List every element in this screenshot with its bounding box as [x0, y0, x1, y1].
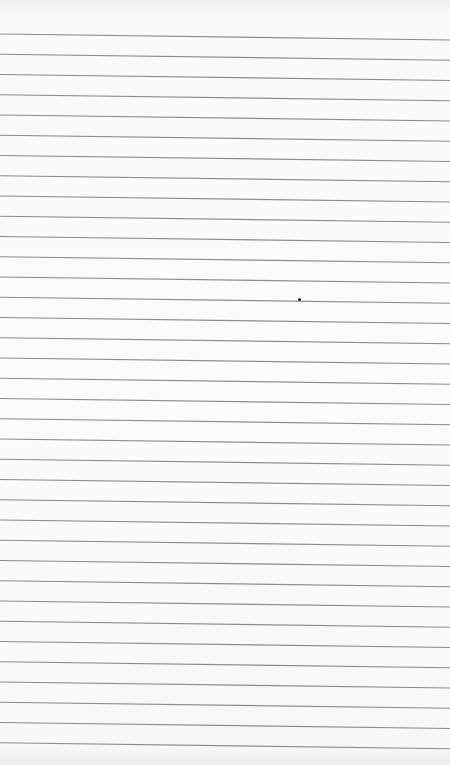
- ruled-line: [0, 480, 450, 486]
- ruled-line: [0, 702, 450, 708]
- ruled-line: [0, 358, 450, 364]
- ruled-line: [0, 459, 450, 465]
- ruled-line: [0, 378, 450, 384]
- ruled-line: [0, 399, 450, 405]
- ruled-line: [0, 216, 450, 222]
- ruled-line: [0, 176, 450, 182]
- ruled-line: [0, 297, 450, 303]
- ruled-line: [0, 115, 450, 121]
- ruled-line: [0, 743, 450, 749]
- ruled-line: [0, 54, 450, 60]
- ruled-line: [0, 196, 450, 202]
- ruled-line: [0, 439, 450, 445]
- ruled-line: [0, 318, 450, 324]
- ruled-line: [0, 601, 450, 607]
- lined-paper: [0, 0, 450, 765]
- ruled-line: [0, 642, 450, 648]
- ruled-line: [0, 338, 450, 344]
- ruled-line: [0, 95, 450, 101]
- ruled-lines: [0, 0, 450, 765]
- ruled-line: [0, 662, 450, 668]
- ink-dot: [298, 298, 301, 301]
- ruled-line: [0, 561, 450, 567]
- ruled-line: [0, 540, 450, 546]
- ruled-line: [0, 581, 450, 587]
- ruled-line: [0, 156, 450, 162]
- ruled-line: [0, 520, 450, 526]
- ruled-line: [0, 419, 450, 425]
- ruled-line: [0, 723, 450, 729]
- ruled-line: [0, 500, 450, 506]
- ruled-line: [0, 237, 450, 243]
- ruled-line: [0, 34, 450, 40]
- ruled-line: [0, 135, 450, 141]
- ruled-line: [0, 257, 450, 263]
- ruled-line: [0, 621, 450, 627]
- ruled-line: [0, 277, 450, 283]
- ruled-line: [0, 682, 450, 688]
- ruled-line: [0, 75, 450, 81]
